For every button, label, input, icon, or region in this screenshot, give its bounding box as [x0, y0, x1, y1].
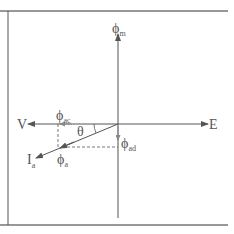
e-label: E: [209, 117, 218, 132]
phi-m-label: ϕm: [112, 21, 126, 38]
ia-label: Ia: [27, 152, 36, 170]
theta-angle-arc: [94, 124, 96, 133]
v-label: V: [17, 117, 27, 132]
theta-label: θ: [77, 124, 84, 139]
phasor-diagram: ϕm E V ϕac θ ϕad Ia ϕa: [0, 0, 234, 234]
phi-a-label: ϕa: [57, 152, 68, 169]
phi-ad-label: ϕad: [121, 136, 136, 153]
phi-ac-label: ϕac: [56, 108, 71, 125]
